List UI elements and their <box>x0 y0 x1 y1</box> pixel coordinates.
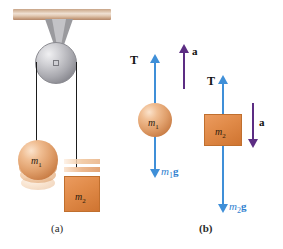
caption-b: (b) <box>199 222 212 234</box>
body-2-acceleration-shaft <box>252 103 254 140</box>
mass-2-afterimage-2 <box>64 167 100 172</box>
body-2-mass-label: m2 <box>215 126 226 140</box>
body-1-tension-arrowhead <box>150 54 160 63</box>
body-2-weight-arrowhead <box>218 204 228 213</box>
body-1-acceleration-shaft <box>183 52 185 89</box>
body-2-tension-label: T <box>207 75 215 87</box>
cord-to-mass-2 <box>76 62 77 168</box>
body-1-acceleration-label: a <box>192 46 198 57</box>
body-1-mass-label: m1 <box>148 117 159 131</box>
mass-2-label: m2 <box>75 191 86 205</box>
body-1-tension-label: T <box>130 54 138 66</box>
body-2-acceleration-label: a <box>259 117 265 128</box>
pulley-axle <box>53 60 59 66</box>
body-1-acceleration-arrowhead <box>179 44 189 53</box>
mass-2-afterimage-1 <box>64 159 100 164</box>
body-2-acceleration-arrowhead <box>248 139 258 148</box>
caption-a: (a) <box>51 222 63 234</box>
mass-1-label: m1 <box>31 155 42 169</box>
body-2-weight-label: m2g <box>229 201 246 215</box>
physics-figure: m1 m2 (a) m1 T m1g a m2 T m2g a ( <box>0 0 283 249</box>
body-2-tension-arrowhead <box>218 75 228 84</box>
body-1-weight-label: m1g <box>161 166 178 180</box>
cord-to-mass-1 <box>36 62 37 144</box>
body-1-weight-arrowhead <box>150 169 160 178</box>
